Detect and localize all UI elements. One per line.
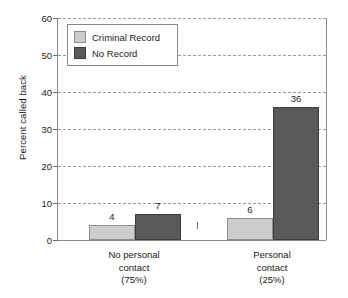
bar-value-label: 36 xyxy=(291,93,302,104)
y-axis-tick-label: 20 xyxy=(12,161,52,172)
y-axis-tick-mark xyxy=(53,240,58,241)
bar-chart: Percent called back 0102030405060 47636 … xyxy=(0,0,348,298)
gridline xyxy=(58,240,326,241)
legend-swatch-icon-no-record xyxy=(74,47,86,59)
bar-value-label: 4 xyxy=(109,211,114,222)
x-axis-category-label-line: No personal xyxy=(79,249,189,262)
legend: Criminal Record No Record xyxy=(67,24,178,66)
legend-swatch-icon-criminal-record xyxy=(74,31,86,43)
x-axis-category-label: No personalcontact(75%) xyxy=(79,249,189,287)
gridline xyxy=(58,92,326,93)
y-axis-tick-label: 50 xyxy=(12,50,52,61)
y-axis-tick-label: 10 xyxy=(12,198,52,209)
y-axis-tick-label: 60 xyxy=(12,13,52,24)
x-axis-category-label-line: contact xyxy=(217,262,327,275)
y-axis-tick-label: 0 xyxy=(12,235,52,246)
bar-value-label: 7 xyxy=(155,200,160,211)
legend-label-criminal-record: Criminal Record xyxy=(92,32,160,43)
legend-item-no-record: No Record xyxy=(74,45,177,61)
y-axis-tick-mark xyxy=(53,129,58,130)
x-axis-category-label-line: (75%) xyxy=(79,274,189,287)
x-axis-separator-tick xyxy=(197,222,198,229)
y-axis-tick-label: 30 xyxy=(12,124,52,135)
x-axis-category-label-line: (25%) xyxy=(217,274,327,287)
bar: 36 xyxy=(273,107,319,240)
legend-label-no-record: No Record xyxy=(92,48,137,59)
y-axis-tick-mark xyxy=(53,55,58,56)
x-axis-category-label-line: Personal xyxy=(217,249,327,262)
x-axis-category-label-line: contact xyxy=(79,262,189,275)
x-axis-category-label: Personalcontact(25%) xyxy=(217,249,327,287)
gridline xyxy=(58,18,326,19)
bar-value-label: 6 xyxy=(247,204,252,215)
legend-item-criminal-record: Criminal Record xyxy=(74,29,177,45)
y-axis-tick-mark xyxy=(53,166,58,167)
y-axis-tick-label: 40 xyxy=(12,87,52,98)
bar: 4 xyxy=(89,225,135,240)
y-axis-tick-mark xyxy=(53,92,58,93)
bar: 6 xyxy=(227,218,273,240)
bar: 7 xyxy=(135,214,181,240)
y-axis-tick-mark xyxy=(53,18,58,19)
y-axis-tick-mark xyxy=(53,203,58,204)
